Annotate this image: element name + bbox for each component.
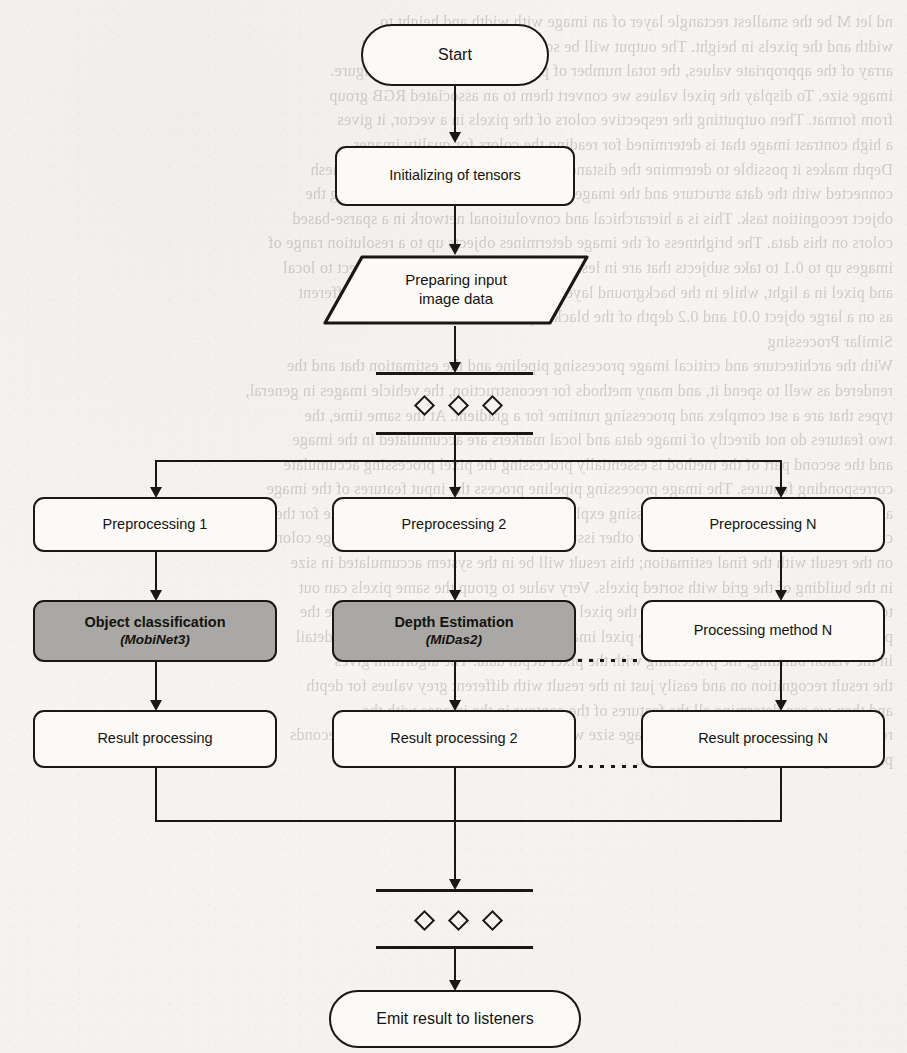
vertical-ellipsis-diamonds-upper (417, 398, 500, 413)
connector-result1-down (155, 768, 157, 822)
connector-preprocessing2-to-method2 (454, 552, 456, 594)
node-preprocessing-1-label: Preprocessing 1 (103, 516, 208, 534)
node-preprocessing-n: Preprocessing N (641, 497, 885, 552)
node-object-classification-label: Object classification (84, 614, 225, 632)
node-depth-estimation-model: (MiDas2) (426, 632, 482, 648)
connector-fork-distribution-rail (155, 460, 782, 462)
node-result-processing-1-label: Result processing (97, 730, 212, 748)
node-depth-estimation: Depth Estimation (MiDas2) (332, 600, 576, 662)
node-result-processing-n: Result processing N (641, 710, 885, 768)
flowchart-canvas: Start Initializing of tensors Preparing … (0, 0, 907, 1053)
fork-bar-top (376, 372, 533, 375)
node-initializing-tensors: Initializing of tensors (335, 146, 575, 206)
connector-fork-branch-middle (454, 460, 456, 490)
node-initializing-tensors-label: Initializing of tensors (389, 167, 520, 185)
node-emit-result-label: Emit result to listeners (376, 1009, 533, 1029)
node-result-processing-1: Result processing (33, 710, 277, 768)
connector-resultn-down (780, 768, 782, 822)
connector-result2-down-to-joinbar (454, 768, 456, 883)
connector-fork-branch-left (155, 460, 157, 490)
node-result-processing-n-label: Result processing N (698, 730, 828, 748)
connector-init-to-input (454, 206, 456, 248)
arrowhead-start-to-init (449, 132, 461, 143)
node-object-classification-model: (MobiNet3) (120, 632, 190, 648)
node-preparing-input-image-data: Preparing input image data (322, 254, 590, 326)
connector-join-rail (155, 820, 782, 822)
node-processing-method-n-label: Processing method N (694, 622, 833, 640)
diamond-mark-icon (482, 395, 503, 416)
node-result-processing-2: Result processing 2 (332, 710, 576, 768)
node-preparing-input-image-data-label: Preparing input image data (405, 271, 507, 309)
connector-fork-branch-right (780, 460, 782, 490)
connector-method2-to-result2 (454, 662, 456, 704)
connector-input-to-forkbar (454, 326, 456, 366)
connector-method1-to-result1 (155, 662, 157, 704)
node-object-classification: Object classification (MobiNet3) (33, 600, 277, 662)
connector-preprocessing1-to-method1 (155, 552, 157, 594)
connector-methodn-to-resultn (780, 662, 782, 704)
node-preprocessing-n-label: Preprocessing N (709, 516, 816, 534)
connector-joinbar-to-end (454, 948, 456, 984)
diamond-mark-icon (414, 910, 435, 931)
node-emit-result: Emit result to listeners (329, 990, 581, 1048)
node-start: Start (361, 24, 549, 86)
vertical-ellipsis-diamonds-lower (417, 913, 500, 928)
join-bar-top (376, 889, 533, 892)
node-result-processing-2-label: Result processing 2 (390, 730, 517, 748)
connector-forkbar-down (454, 434, 456, 462)
horizontal-ellipsis-dots-methods (578, 659, 638, 662)
node-preprocessing-1: Preprocessing 1 (33, 497, 277, 552)
node-start-label: Start (438, 45, 472, 65)
connector-preprocessingn-to-methodn (780, 552, 782, 594)
diamond-mark-icon (482, 910, 503, 931)
connector-start-to-init (454, 86, 456, 136)
node-preprocessing-2: Preprocessing 2 (332, 497, 576, 552)
node-depth-estimation-label: Depth Estimation (394, 614, 513, 632)
horizontal-ellipsis-dots-results (578, 765, 638, 768)
diamond-mark-icon (414, 395, 435, 416)
node-processing-method-n: Processing method N (641, 600, 885, 662)
node-preprocessing-2-label: Preprocessing 2 (402, 516, 507, 534)
diamond-mark-icon (448, 395, 469, 416)
diamond-mark-icon (448, 910, 469, 931)
